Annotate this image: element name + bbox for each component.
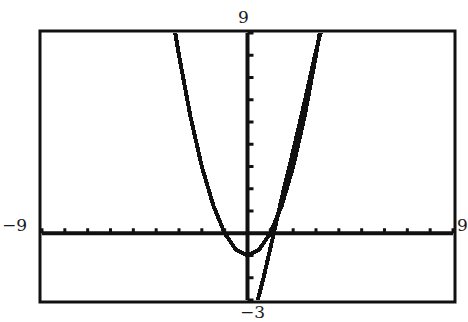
curve-2	[258, 33, 321, 300]
axes	[42, 33, 453, 300]
